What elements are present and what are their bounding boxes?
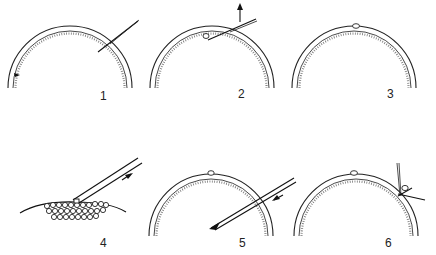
panel-label-2: 2 bbox=[238, 87, 245, 101]
cell bbox=[203, 34, 209, 39]
dome-membrane bbox=[292, 26, 416, 88]
panel-label-6: 6 bbox=[385, 236, 392, 250]
beveled-pipette bbox=[209, 178, 296, 230]
dome-membrane bbox=[294, 174, 418, 236]
arrow-down-icon bbox=[272, 195, 283, 201]
dome-membrane bbox=[8, 26, 132, 88]
cell bbox=[208, 171, 214, 176]
arrow-up-icon bbox=[237, 3, 243, 22]
panel-2: 2 bbox=[150, 3, 274, 101]
pipette bbox=[73, 158, 142, 203]
panel-label-4: 4 bbox=[100, 236, 107, 250]
cell-top bbox=[351, 171, 358, 176]
panel-6: 6 bbox=[294, 163, 425, 250]
cell-edge bbox=[402, 185, 408, 190]
panel-label-1: 1 bbox=[100, 89, 107, 103]
cell-cluster bbox=[44, 201, 108, 219]
cell bbox=[353, 24, 360, 29]
panel-1: 1 bbox=[8, 20, 139, 103]
crossing-needles bbox=[397, 163, 425, 200]
panel-label-5: 5 bbox=[239, 236, 246, 250]
panel-5: 5 bbox=[149, 171, 296, 250]
panel-label-3: 3 bbox=[387, 87, 394, 101]
panel-4: 4 bbox=[20, 158, 142, 250]
dome-membrane bbox=[150, 26, 274, 88]
panel-3: 3 bbox=[292, 24, 416, 101]
dome-membrane bbox=[149, 174, 273, 236]
procedure-diagram: 1 2 3 bbox=[0, 0, 436, 255]
